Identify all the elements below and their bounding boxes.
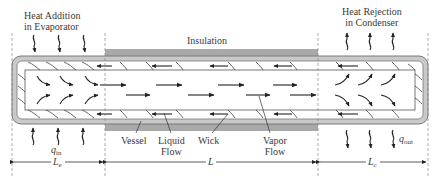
evaporator-label-line1: Heat Addition (24, 10, 80, 21)
insulation-label: Insulation (187, 35, 227, 46)
vapor-core (25, 70, 415, 110)
condenser-label-line1: Heat Rejection (342, 6, 402, 17)
vapor-flow-line1: Vapor (263, 135, 287, 146)
q-out-subscript: out (404, 138, 413, 146)
length-adiabatic-label: L (208, 156, 214, 167)
lc-subscript: c (374, 161, 377, 169)
liquid-flow-line2: Flow (158, 146, 185, 157)
le-subscript: e (59, 161, 62, 169)
q-out-label: qout (399, 133, 413, 148)
vessel-callout: Vessel (121, 135, 147, 146)
vapor-flow-callout: Vapor Flow (263, 135, 287, 157)
vapor-flow-line2: Flow (263, 146, 287, 157)
length-evaporator-label: Le (53, 156, 62, 171)
evaporator-label: Heat Addition in Evaporator (24, 10, 80, 32)
liquid-flow-callout: Liquid Flow (158, 135, 185, 157)
condenser-label: Heat Rejection in Condenser (342, 6, 402, 28)
condenser-label-line2: in Condenser (342, 17, 402, 28)
wick-callout: Wick (198, 135, 219, 146)
evaporator-label-line2: in Evaporator (24, 21, 80, 32)
liquid-flow-line1: Liquid (158, 135, 185, 146)
length-condenser-label: Lc (368, 156, 377, 171)
